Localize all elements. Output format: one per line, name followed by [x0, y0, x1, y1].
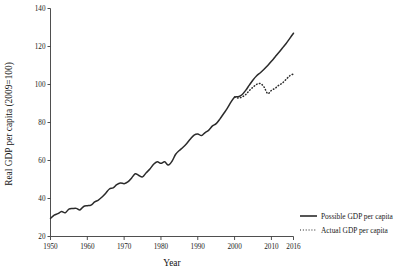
y-tick-label: 60	[38, 157, 46, 165]
x-axis-title: Year	[163, 258, 181, 268]
x-tick-label: 2016	[286, 243, 301, 251]
legend-label: Possible GDP per capita	[321, 212, 393, 221]
y-tick-label: 40	[38, 195, 46, 203]
x-tick-label: 1990	[191, 243, 206, 251]
x-tick-label: 1980	[154, 243, 169, 251]
x-tick-label: 2000	[227, 243, 242, 251]
x-tick-label: 1970	[117, 243, 132, 251]
x-tick-label: 2010	[264, 243, 279, 251]
series-line-actual	[235, 74, 294, 98]
data-series-group	[51, 33, 294, 218]
x-tick-label: 1950	[43, 243, 58, 251]
y-tick-label: 140	[35, 5, 46, 13]
y-tick-label: 120	[35, 43, 46, 51]
x-axis: 19501960197019801990200020102016	[43, 237, 301, 251]
legend-label: Actual GDP per capita	[321, 226, 389, 235]
y-axis-title: Real GDP per capita (2009=100)	[4, 62, 15, 186]
chart-canvas: 20406080100120140 1950196019701980199020…	[0, 0, 403, 271]
chart-figure: 20406080100120140 1950196019701980199020…	[0, 0, 403, 271]
x-tick-label: 1960	[80, 243, 95, 251]
series-line-possible	[51, 33, 294, 218]
y-tick-label: 100	[35, 81, 46, 89]
y-axis: 20406080100120140	[35, 5, 51, 241]
y-tick-label: 80	[38, 119, 46, 127]
chart-legend: Possible GDP per capitaActual GDP per ca…	[300, 212, 393, 235]
y-tick-label: 20	[38, 233, 46, 241]
